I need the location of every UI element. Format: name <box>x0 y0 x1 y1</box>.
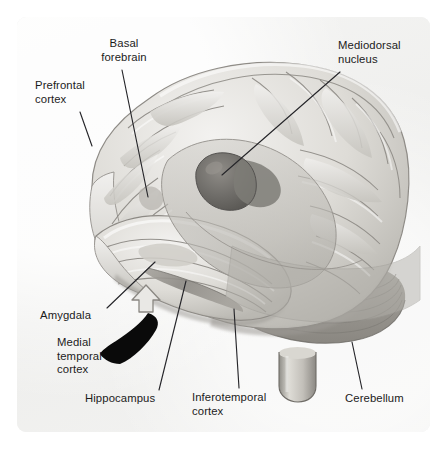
label-amygdala: Amygdala <box>40 309 91 323</box>
label-cerebellum: Cerebellum <box>345 392 404 406</box>
label-inferotemporal-cortex: Inferotemporal cortex <box>192 391 266 418</box>
brain-diagram-figure: Basal forebrain Prefrontal cortex Mediod… <box>0 0 446 449</box>
label-hippocampus: Hippocampus <box>85 392 155 406</box>
label-medial-temporal-cortex: Medial temporal cortex <box>57 336 102 377</box>
label-basal-forebrain: Basal forebrain <box>89 37 159 64</box>
label-prefrontal-cortex: Prefrontal cortex <box>35 79 85 106</box>
label-mediodorsal-nucleus: Mediodorsal nucleus <box>338 39 401 66</box>
